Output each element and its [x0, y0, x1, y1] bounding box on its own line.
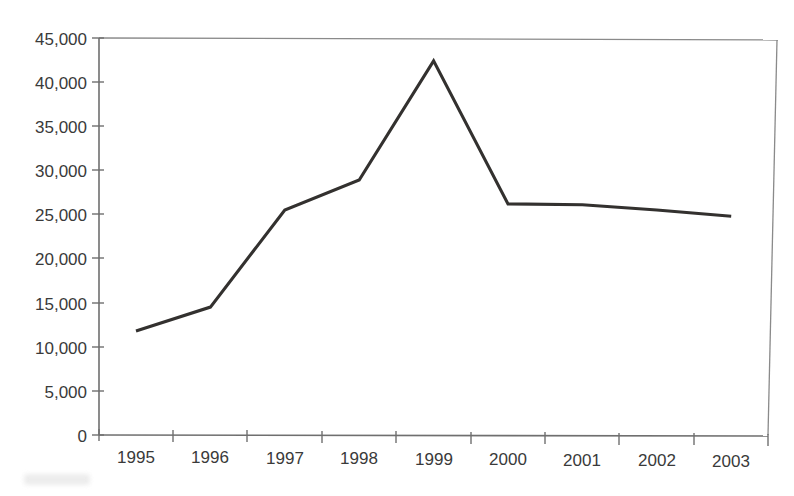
- y-tick-label: 20,000: [35, 250, 87, 269]
- y-tick-label: 15,000: [35, 295, 87, 314]
- x-tick-label: 1998: [340, 449, 378, 468]
- x-axis-line: [99, 435, 768, 436]
- line-chart: 45,000 40,000 35,000 30,000 25,000 20,00…: [0, 0, 794, 496]
- y-tick-label: 25,000: [35, 206, 87, 225]
- y-tick-label: 10,000: [35, 339, 87, 358]
- y-tick-label: 5,000: [44, 383, 87, 402]
- y-tick-label: 40,000: [35, 74, 87, 93]
- chart-canvas: 45,000 40,000 35,000 30,000 25,000 20,00…: [0, 0, 794, 496]
- x-tick-label: 2003: [712, 452, 750, 471]
- x-tick-label: 1999: [415, 450, 453, 469]
- x-tick-label: 2002: [638, 451, 676, 470]
- scan-artifact: [24, 474, 90, 485]
- x-tick-label: 1997: [266, 449, 304, 468]
- x-tick-label: 2000: [489, 450, 527, 469]
- y-tick-label: 45,000: [35, 30, 87, 49]
- x-tick-label: 1995: [117, 448, 155, 467]
- y-tick-label: 0: [78, 427, 87, 446]
- x-tick-label: 1996: [191, 448, 229, 467]
- y-tick-label: 30,000: [35, 162, 87, 181]
- y-tick-label: 35,000: [35, 118, 87, 137]
- chart-background: [0, 0, 794, 496]
- x-tick-label: 2001: [563, 451, 601, 470]
